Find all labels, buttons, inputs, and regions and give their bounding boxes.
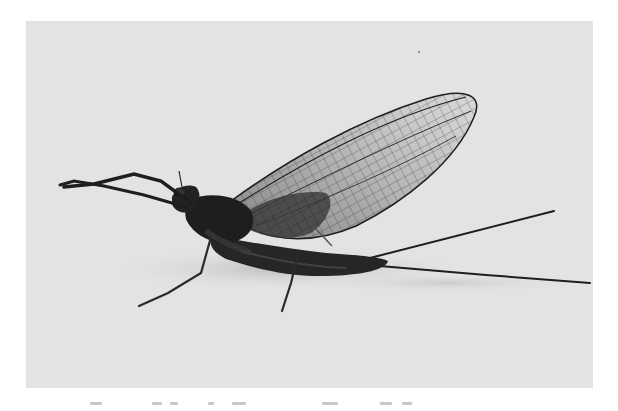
caption-glyph-fragment bbox=[152, 402, 162, 405]
caption-glyph-fragment bbox=[90, 402, 102, 405]
caption-glyph-fragment bbox=[402, 402, 412, 405]
antenna bbox=[179, 171, 182, 187]
mayfly-photo bbox=[26, 21, 593, 388]
caption-cropped bbox=[60, 402, 560, 411]
forelegs bbox=[60, 174, 191, 207]
caption-glyph-fragment bbox=[322, 402, 338, 405]
caption-glyph-fragment bbox=[170, 402, 178, 405]
caption-glyph-fragment bbox=[208, 402, 214, 405]
caption-glyph-fragment bbox=[380, 402, 392, 405]
caption-glyph-fragment bbox=[232, 402, 246, 405]
mayfly-illustration bbox=[26, 21, 593, 388]
